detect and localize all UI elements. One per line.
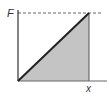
y-axis-label: F xyxy=(7,7,15,19)
x-axis-label: x xyxy=(85,83,92,94)
diagram-canvas: F x xyxy=(0,0,109,96)
